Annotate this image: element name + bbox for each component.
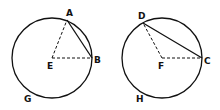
left-figure: A B E G (12, 8, 101, 104)
diagram-canvas: A B E G D C F H (0, 0, 220, 110)
label-a: A (66, 8, 73, 18)
label-e: E (47, 61, 53, 71)
chord-ab (67, 20, 92, 58)
label-h: H (136, 94, 144, 104)
label-d: D (138, 11, 145, 21)
label-g: G (24, 94, 31, 104)
label-f: F (158, 61, 164, 71)
chord-dc (143, 23, 202, 58)
label-c: C (204, 56, 211, 66)
radius-ea (52, 20, 67, 58)
label-b: B (94, 55, 101, 65)
right-figure: D C F H (122, 11, 211, 104)
